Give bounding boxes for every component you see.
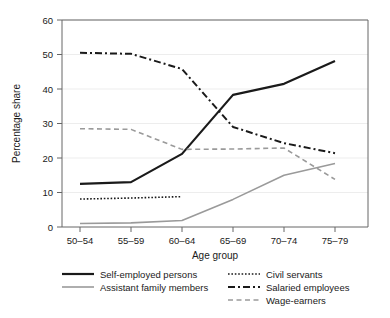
y-axis-label: Percentage share (11, 84, 22, 163)
y-tick-label-0: 0 (48, 222, 53, 233)
y-tick-label-60: 60 (42, 15, 53, 26)
x-tick-label-4: 70–74 (271, 235, 297, 246)
x-axis-label: Age group (192, 250, 239, 261)
x-tick-label-0: 50–54 (67, 235, 93, 246)
legend-label-civil-servants: Civil servants (266, 269, 323, 280)
y-tick-label-40: 40 (42, 84, 53, 95)
y-tick-label-50: 50 (42, 49, 53, 60)
x-tick-label-1: 55–59 (118, 235, 144, 246)
legend-label-salaried-employees: Salaried employees (266, 282, 350, 293)
y-tick-label-20: 20 (42, 153, 53, 164)
x-tick-label-5: 75–79 (322, 235, 348, 246)
legend-label-assistant-family-members: Assistant family members (100, 282, 208, 293)
x-tick-label-3: 65–69 (220, 235, 246, 246)
y-tick-label-10: 10 (42, 187, 53, 198)
legend-label-wage-earners: Wage-earners (266, 295, 326, 306)
chart-figure: 0 10 20 30 40 50 60 50–54 55–59 60–64 65… (0, 0, 390, 318)
x-tick-label-2: 60–64 (169, 235, 195, 246)
y-tick-label-30: 30 (42, 118, 53, 129)
legend-label-self-employed-persons: Self-employed persons (100, 269, 197, 280)
